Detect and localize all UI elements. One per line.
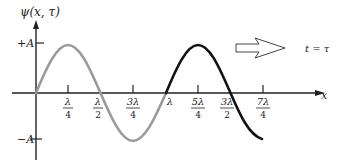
svg-text:λ: λ [94,96,101,107]
time-label: t = τ [305,43,330,54]
svg-text:4: 4 [260,110,266,120]
svg-text:3λ: 3λ [127,96,140,107]
tick-label-7lambda-over-4: 7λ 4 [256,96,270,120]
y-axis-arrowhead-icon [33,20,39,29]
svg-text:λ: λ [166,96,173,107]
propagation-arrow-icon [236,38,285,58]
neg-amplitude-label: −A [17,133,34,146]
svg-text:λ: λ [64,96,71,107]
tick-label-5lambda-over-4: 5λ 4 [191,96,205,120]
svg-text:4: 4 [195,110,201,120]
wave-second-part [166,45,262,139]
tick-label-3lambda-over-4: 3λ 4 [126,96,140,120]
svg-text:5λ: 5λ [192,96,205,107]
svg-text:4: 4 [65,110,71,120]
svg-text:2: 2 [224,110,230,120]
pos-amplitude-label: +A [17,37,34,50]
svg-text:2: 2 [95,110,101,120]
tick-label-lambda-over-2: λ 2 [93,96,103,120]
tick-label-lambda: λ [166,96,173,107]
wave-diagram: ψ(x, τ) x +A −A λ 4 λ 2 3λ 4 λ 5λ 4 3 [0,0,337,166]
tick-label-3lambda-over-2: 3λ 2 [220,96,234,120]
tick-label-lambda-over-4: λ 4 [63,96,73,120]
y-axis-label: ψ(x, τ) [20,5,60,19]
svg-text:7λ: 7λ [257,96,270,107]
x-axis-label: x [321,89,328,102]
svg-text:4: 4 [130,110,136,120]
